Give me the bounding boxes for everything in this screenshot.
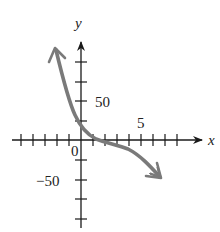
y-tick-label-neg50: −50	[36, 173, 59, 189]
x-axis-label: x	[207, 132, 215, 148]
y-tick-label-50: 50	[95, 94, 110, 110]
y-axis-label: y	[73, 15, 82, 31]
x-tick-label-5: 5	[137, 115, 145, 131]
graph-canvas: y x 5 50 −50 0	[0, 0, 220, 232]
origin-label: 0	[71, 143, 79, 159]
